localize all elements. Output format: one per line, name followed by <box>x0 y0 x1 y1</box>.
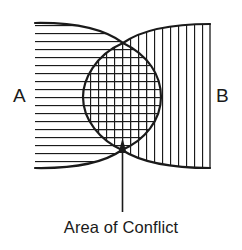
conflict-diagram <box>0 0 242 250</box>
conflict-area-label: Area of Conflict <box>0 219 242 236</box>
region-b-label: B <box>216 86 229 105</box>
arrow-icon <box>119 138 127 212</box>
region-a-label: A <box>13 86 26 105</box>
